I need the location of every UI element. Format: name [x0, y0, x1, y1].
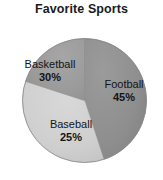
slice-label-baseball-percent: 25% [38, 131, 104, 143]
slice-label-football: Football 45% [92, 78, 156, 103]
slice-label-basketball: Basketball 30% [12, 58, 88, 83]
slice-label-basketball-name: Basketball [12, 58, 88, 70]
chart-title: Favorite Sports [0, 2, 163, 17]
slice-label-baseball-name: Baseball [38, 118, 104, 130]
pie-chart-figure: Favorite Sports [0, 0, 163, 180]
slice-label-baseball: Baseball 25% [38, 118, 104, 143]
slice-label-football-percent: 45% [92, 91, 156, 103]
slice-label-basketball-percent: 30% [12, 71, 88, 83]
slice-label-football-name: Football [92, 78, 156, 90]
